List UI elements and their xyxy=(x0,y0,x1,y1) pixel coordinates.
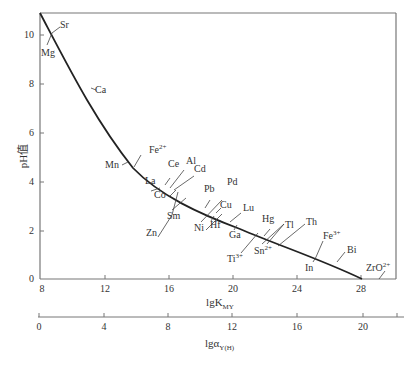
x2-tick-8: 8 xyxy=(166,321,171,332)
label-lu: Lu xyxy=(243,202,254,213)
label-co: Co xyxy=(154,189,166,200)
label-sm: Sm xyxy=(167,210,181,221)
element-labels: Sr Mg Ca Mn Fe2+ La Ce Al Cd Co Zn Sm Pb… xyxy=(41,19,390,273)
x2-tick-12: 12 xyxy=(227,321,237,332)
label-in: In xyxy=(305,262,313,273)
secondary-x-axis xyxy=(38,313,404,317)
label-cd: Cd xyxy=(194,163,206,174)
label-ga: Ga xyxy=(229,229,241,240)
label-ti3: Ti3+ xyxy=(227,252,243,264)
y-axis-title: pH值 xyxy=(17,144,29,168)
label-mg: Mg xyxy=(41,47,55,58)
x2-tick-20: 20 xyxy=(358,321,368,332)
label-mn: Mn xyxy=(105,159,119,170)
x-tick-20: 20 xyxy=(228,283,238,294)
label-bi: Bi xyxy=(347,244,357,255)
y-tick-0: 0 xyxy=(29,273,34,284)
label-zro2: ZrO2+ xyxy=(366,261,390,273)
label-hg: Hg xyxy=(262,213,274,224)
x2-axis-title: lgαY(H) xyxy=(205,337,235,352)
y-tick-6: 6 xyxy=(29,127,34,138)
label-cu: Cu xyxy=(220,199,232,210)
label-ce: Ce xyxy=(168,158,180,169)
ringbom-chart: 0 2 4 6 8 10 pH值 8 12 16 20 24 28 lgKMY … xyxy=(0,0,419,366)
x-axis-title: lgKMY xyxy=(206,296,234,311)
y-tick-8: 8 xyxy=(29,78,34,89)
x2-tick-4: 4 xyxy=(102,321,107,332)
plot-frame xyxy=(40,13,396,279)
x-tick-8: 8 xyxy=(40,283,45,294)
x2-tick-16: 16 xyxy=(292,321,302,332)
label-tl: Tl xyxy=(285,219,294,230)
y-tick-10: 10 xyxy=(24,29,34,40)
label-pb: Pb xyxy=(204,183,215,194)
label-fe3: Fe3+ xyxy=(323,229,341,241)
label-sr: Sr xyxy=(60,19,70,30)
label-ni: Ni xyxy=(194,222,204,233)
label-pd: Pd xyxy=(227,176,238,187)
label-sn2: Sn2+ xyxy=(254,244,272,256)
x-tick-12: 12 xyxy=(100,283,110,294)
label-th: Th xyxy=(306,216,317,227)
x-tick-28: 28 xyxy=(356,283,366,294)
y-tick-4: 4 xyxy=(29,176,34,187)
x2-tick-0: 0 xyxy=(37,321,42,332)
label-zn: Zn xyxy=(146,227,157,238)
y-tick-2: 2 xyxy=(29,225,34,236)
ringbom-curve xyxy=(40,13,362,279)
label-ca: Ca xyxy=(95,84,107,95)
label-hf: Hf xyxy=(210,219,221,230)
label-la: La xyxy=(145,175,156,186)
label-fe2: Fe2+ xyxy=(149,143,167,155)
x-tick-24: 24 xyxy=(292,283,302,294)
leader-lines xyxy=(47,27,385,279)
x-tick-16: 16 xyxy=(164,283,174,294)
